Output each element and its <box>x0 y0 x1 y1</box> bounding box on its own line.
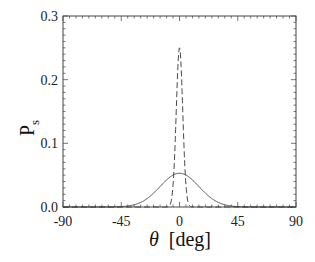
data-curves <box>63 48 296 207</box>
x-tick-label: -45 <box>112 214 131 229</box>
y-tick-label: 0.0 <box>41 200 59 215</box>
x-tick-label: -90 <box>54 214 73 229</box>
axis-ticks <box>63 16 296 207</box>
y-tick-label: 0.1 <box>41 136 59 151</box>
curve-solid <box>63 173 296 207</box>
y-tick-label: 0.2 <box>41 73 59 88</box>
x-tick-label: 0 <box>176 214 183 229</box>
curve-dashed <box>63 48 296 207</box>
plot-frame <box>63 16 296 207</box>
chart: 0.00.10.20.3 -90-4504590 Ps θ[deg] <box>0 0 315 262</box>
x-axis-label: θ[deg] <box>149 228 211 251</box>
y-tick-label: 0.3 <box>41 9 59 24</box>
x-tick-labels: -90-4504590 <box>54 214 303 229</box>
y-tick-labels: 0.00.10.20.3 <box>41 9 59 215</box>
x-tick-label: 90 <box>289 214 303 229</box>
x-tick-label: 45 <box>231 214 245 229</box>
y-axis-label: Ps <box>16 120 42 136</box>
